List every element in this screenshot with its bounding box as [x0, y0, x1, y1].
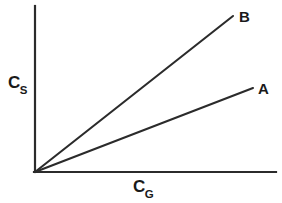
series-label-a: A: [258, 81, 269, 96]
axes-group: [34, 6, 276, 172]
y-axis-label: CS: [8, 74, 28, 95]
y-axis-label-base: C: [8, 73, 20, 92]
y-axis-label-subscript: S: [20, 84, 28, 96]
chart-figure: CS CG B A: [0, 0, 282, 203]
series-line-a: [35, 88, 253, 172]
x-axis-label-subscript: G: [145, 188, 154, 200]
x-axis-label-base: C: [133, 177, 145, 196]
series-label-b: B: [239, 9, 250, 24]
x-axis-label: CG: [133, 178, 154, 199]
series-line-b: [35, 16, 233, 172]
plot-canvas: [0, 0, 282, 203]
series-group: [35, 16, 253, 172]
